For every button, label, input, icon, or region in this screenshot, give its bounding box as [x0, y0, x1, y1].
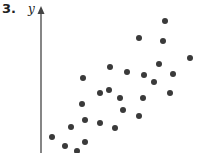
data-point [167, 90, 173, 96]
data-point [170, 71, 176, 77]
scatter-plot [0, 0, 200, 153]
y-axis-arrow-icon [38, 6, 45, 14]
data-point [97, 90, 103, 96]
data-point [82, 117, 88, 123]
data-point [117, 95, 123, 101]
data-point [136, 113, 142, 119]
data-point [68, 124, 74, 130]
data-point [62, 143, 68, 149]
data-point [136, 35, 142, 41]
data-point [160, 38, 166, 44]
data-point [151, 79, 157, 85]
data-point [141, 72, 147, 78]
data-point [80, 75, 86, 81]
data-point [156, 61, 162, 67]
data-point [140, 95, 146, 101]
data-point [97, 120, 103, 126]
data-point [106, 87, 112, 93]
data-point [82, 139, 88, 145]
data-points [49, 18, 193, 153]
data-point [49, 134, 55, 140]
data-point [79, 101, 85, 107]
data-point [112, 125, 118, 131]
data-point [74, 148, 80, 153]
data-point [107, 64, 113, 70]
data-point [162, 18, 168, 24]
data-point [124, 69, 130, 75]
data-point [120, 107, 126, 113]
data-point [187, 55, 193, 61]
